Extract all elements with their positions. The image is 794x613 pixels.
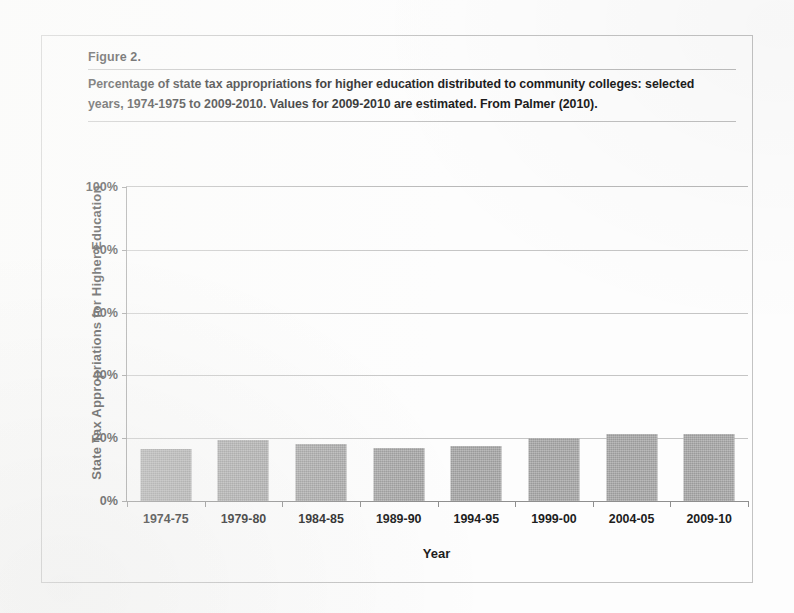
bar [373,448,424,501]
x-axis-tick-label: 1994-95 [454,512,499,526]
bar [606,434,657,501]
bar-chart: State Tax Appropriations for Higher Educ… [41,160,753,570]
x-axis-tick-mark [438,501,439,507]
bars-group [127,187,748,501]
bar [218,440,269,501]
x-axis-tick-label: 1974-75 [143,512,188,526]
figure-label: Figure 2. [88,50,736,65]
y-axis-tick-label: 60% [93,306,118,320]
bar-slot [515,187,593,501]
x-axis-tick-mark [127,501,128,507]
bar-slot [670,187,748,501]
x-axis-tick-mark [360,501,361,507]
figure-caption-block: Figure 2. Percentage of state tax approp… [88,50,736,122]
x-axis-tick-label: 1984-85 [298,512,343,526]
x-axis-tick-label: 1979-80 [221,512,266,526]
figure-page: Figure 2. Percentage of state tax approp… [0,0,794,613]
x-axis-tick-label: 2004-05 [609,512,654,526]
x-axis-tick-label: 2009-10 [686,512,731,526]
figure-caption-text: Percentage of state tax appropriations f… [88,75,728,114]
bar [684,434,735,501]
bar-slot [593,187,671,501]
bar-slot [127,187,205,501]
caption-rule-top [88,69,736,70]
bar-slot [360,187,438,501]
x-axis-tick-mark [282,501,283,507]
bar-slot [282,187,360,501]
y-axis-tick-label: 0% [100,494,118,508]
x-axis-tick-mark [205,501,206,507]
x-axis-tick-mark [670,501,671,507]
caption-rule-bottom [88,121,736,122]
x-axis-tick-label: 1989-90 [376,512,421,526]
x-axis-tick-mark [593,501,594,507]
y-axis-tick-label: 80% [93,243,118,257]
y-axis-tick-label: 20% [93,431,118,445]
y-axis-tick-label: 100% [86,180,118,194]
y-axis-tick-label: 40% [93,368,118,382]
bar [296,444,347,501]
x-axis-tick-mark [748,501,749,507]
bar [528,438,579,501]
x-axis-tick-mark [515,501,516,507]
bar [451,446,502,501]
bar-slot [438,187,516,501]
bar [140,449,191,501]
plot-area: 0%20%40%60%80%100% 1974-751979-801984-85… [126,186,748,502]
bar-slot [205,187,283,501]
x-axis-tick-label: 1999-00 [531,512,576,526]
x-axis-title: Year [126,546,747,561]
